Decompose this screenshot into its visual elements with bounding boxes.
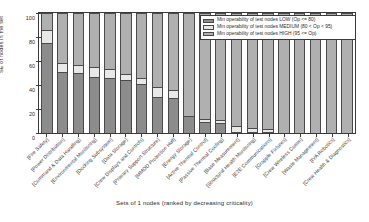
legend-item-medium: Min operability of test nodes MEDIUM (80… [203,24,353,31]
y-tick-label: 100 [26,16,35,22]
legend-swatch-high-icon [203,32,214,36]
legend-swatch-medium-icon [203,25,214,29]
bar-segment-low [120,80,131,133]
bar-segment-low [247,132,258,133]
bar-segment-medium [41,30,52,43]
legend-swatch-low-icon [203,19,214,23]
chart-legend: Min operability of test nodes LOW (Op <=… [200,15,356,40]
y-tick-label: 80 [29,40,35,46]
bar-segment-high [89,13,100,67]
bar-group [134,13,150,133]
bar-segment-low [231,132,242,133]
y-tick-label: 60 [29,64,35,70]
bar-segment-low [152,97,163,133]
stacked-bar [57,13,68,133]
bar-group [165,13,181,133]
stacked-bar [41,13,52,133]
bar-segment-low [215,123,226,133]
stacked-bar [120,13,131,133]
bar-group [71,13,87,133]
legend-item-high: Min operability of test nodes HIGH (95 <… [203,31,353,38]
bar-segment-low [57,72,68,133]
legend-label-medium: Min operability of test nodes MEDIUM (80… [217,25,332,30]
bar-segment-low [199,122,210,133]
bar-segment-medium [73,65,84,73]
bar-segment-high [136,13,147,78]
y-tick-label: 0 [32,136,35,142]
bar-segment-high [73,13,84,65]
bar-segment-low [136,84,147,133]
stacked-bar [183,13,194,133]
bar-segment-low [183,116,194,133]
bar-segment-low [73,73,84,133]
y-tick-label: 40 [29,88,35,94]
bar-segment-medium [104,69,115,77]
bar-segment-high [41,13,52,30]
stacked-bar [73,13,84,133]
bar-group [102,13,118,133]
bar-segment-medium [89,67,100,77]
legend-label-low: Min operability of test nodes LOW (Op <=… [217,18,315,23]
bar-segment-high [57,13,68,63]
bar-segment-high [152,13,163,87]
stacked-bar [136,13,147,133]
bar-segment-low [41,43,52,133]
bar-group [39,13,55,133]
x-axis-title: Sets of 1 nodes (ranked by decreasing cr… [0,200,369,206]
x-axis-labels: [Fire Safety][Power Distribution][Comman… [38,134,356,196]
bar-segment-low [168,98,179,133]
y-axis-title: SE of nodes in the set [0,16,4,73]
bar-group [55,13,71,133]
stacked-bar [168,13,179,133]
stacked-bar [152,13,163,133]
bar-segment-high [168,13,179,90]
y-tick-label: 20 [29,112,35,118]
bar-group [118,13,134,133]
bar-group [181,13,197,133]
bar-segment-medium [57,63,68,71]
chart-figure: 020406080100 SE of nodes in the set [Fir… [0,0,369,222]
bar-segment-medium [152,87,163,97]
stacked-bar [89,13,100,133]
bar-segment-high [120,13,131,74]
bar-segment-low [104,78,115,133]
bar-segment-medium [168,90,179,98]
bar-group [86,13,102,133]
stacked-bar [104,13,115,133]
bar-segment-low [89,77,100,133]
bar-segment-low [262,132,273,133]
bar-group [150,13,166,133]
bar-segment-high [104,13,115,69]
bar-segment-high [183,13,194,116]
legend-label-high: Min operability of test nodes HIGH (95 <… [217,32,317,37]
